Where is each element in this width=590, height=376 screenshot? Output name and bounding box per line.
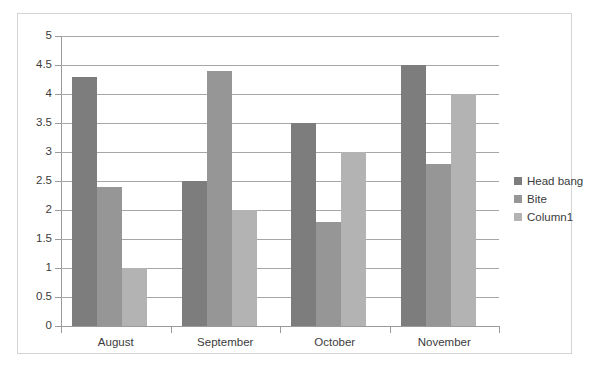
y-axis-tick-label: 5	[18, 30, 52, 42]
legend-item[interactable]: Column1	[514, 208, 590, 226]
y-axis-tick-label: 1	[18, 262, 52, 274]
x-axis-category-label: October	[280, 336, 390, 348]
legend-item-label: Bite	[527, 193, 547, 205]
bar	[291, 123, 316, 326]
bar	[316, 222, 341, 326]
bar	[401, 65, 426, 326]
chart-frame: 00.511.522.533.544.55 AugustSeptemberOct…	[17, 13, 572, 354]
legend-item[interactable]: Head bang	[514, 172, 590, 190]
y-axis-tick	[55, 36, 61, 37]
y-axis-tick-label: 4.5	[18, 59, 52, 71]
x-axis-category-label: August	[61, 336, 171, 348]
legend-item-label: Head bang	[527, 175, 583, 187]
bar	[341, 152, 366, 326]
y-axis-labels: 00.511.522.533.544.55	[18, 14, 52, 355]
x-axis-category-label: September	[171, 336, 281, 348]
y-axis-tick-label: 2.5	[18, 175, 52, 187]
y-axis-tick	[55, 326, 61, 327]
legend-swatch-icon	[514, 195, 522, 203]
y-axis-tick	[55, 181, 61, 182]
x-axis-category-label: November	[390, 336, 500, 348]
bar	[72, 77, 97, 326]
gridline	[61, 152, 499, 153]
y-axis-tick-label: 3.5	[18, 117, 52, 129]
y-axis-tick	[55, 123, 61, 124]
gridline	[61, 65, 499, 66]
y-axis-tick-label: 1.5	[18, 233, 52, 245]
bar	[97, 187, 122, 326]
y-axis-tick	[55, 152, 61, 153]
y-axis-tick-label: 3	[18, 146, 52, 158]
legend-swatch-icon	[514, 213, 522, 221]
legend-swatch-icon	[514, 177, 522, 185]
plot-area	[61, 36, 499, 326]
y-axis-tick-label: 4	[18, 88, 52, 100]
bar	[426, 164, 451, 326]
y-axis-tick-label: 0.5	[18, 291, 52, 303]
y-axis-tick	[55, 239, 61, 240]
x-axis-tick	[390, 327, 391, 333]
gridline	[61, 123, 499, 124]
y-axis-tick	[55, 65, 61, 66]
x-axis-tick	[171, 327, 172, 333]
y-axis-tick-label: 0	[18, 320, 52, 332]
gridline	[61, 94, 499, 95]
y-axis-tick	[55, 94, 61, 95]
x-axis-tick	[499, 327, 500, 333]
bar	[207, 71, 232, 326]
bar	[451, 94, 476, 326]
bar	[122, 268, 147, 326]
y-axis-tick	[55, 210, 61, 211]
y-axis-tick	[55, 297, 61, 298]
x-axis-tick	[280, 327, 281, 333]
y-axis-tick-label: 2	[18, 204, 52, 216]
legend-item-label: Column1	[527, 211, 573, 223]
legend-item[interactable]: Bite	[514, 190, 590, 208]
x-axis-tick	[61, 327, 62, 333]
chart-legend: Head bangBiteColumn1	[514, 172, 590, 226]
bar	[232, 210, 257, 326]
gridline	[61, 36, 499, 37]
y-axis-tick	[55, 268, 61, 269]
bar	[182, 181, 207, 326]
